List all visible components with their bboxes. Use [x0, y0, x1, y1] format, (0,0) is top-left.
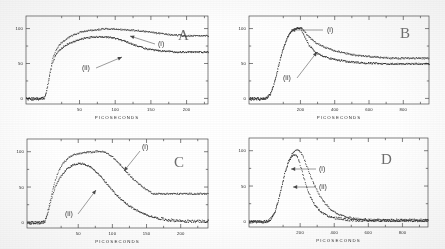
y-tick-label: 0: [21, 220, 24, 225]
x-tick-label: 150: [143, 231, 151, 236]
series-ii-points: [26, 36, 209, 101]
y-tick-label: 50: [241, 61, 247, 66]
x-axis-title: PICOSECONDS: [95, 115, 140, 120]
x-tick-label: 400: [331, 107, 339, 112]
panel-letter: D: [381, 151, 392, 167]
curve-label-i: (i): [327, 26, 333, 34]
x-axis-title: PICOSECONDS: [316, 238, 361, 243]
annotation-arrow-head: [124, 167, 128, 171]
curve-label-i: (i): [142, 143, 148, 151]
panel-letter: C: [174, 154, 184, 170]
x-tick-label: 200: [297, 107, 305, 112]
x-tick-label: 150: [147, 107, 155, 112]
x-tick-label: 50: [76, 231, 82, 236]
y-tick-label: 100: [15, 26, 23, 31]
annotation-leader-line: [96, 57, 122, 68]
y-tick-label: 0: [243, 219, 246, 224]
chart-panel-b: 200400600800050100PICOSECONDSB(i)(ii): [223, 0, 445, 124]
x-tick-label: 600: [365, 230, 373, 235]
panel-letter: B: [400, 25, 410, 41]
curve-label-ii: (ii): [65, 210, 73, 218]
chart-panel-d: 200400600800050100PICOSECONDSD(i)(ii): [223, 124, 445, 249]
series-ii-points: [27, 163, 208, 225]
x-tick-label: 800: [399, 107, 407, 112]
y-tick-label: 100: [238, 26, 246, 31]
annotation-arrow-head: [130, 35, 135, 39]
x-tick-label: 200: [183, 107, 191, 112]
x-tick-label: 100: [111, 107, 119, 112]
annotation-leader-line: [297, 52, 317, 78]
annotation-arrow-head: [92, 190, 96, 195]
annotation-arrow-head: [313, 52, 317, 56]
y-tick-label: 100: [16, 149, 24, 154]
annotation-arrow-head: [293, 185, 297, 189]
series-ii-points: [249, 154, 428, 223]
curve-label-ii: (ii): [319, 183, 327, 191]
y-tick-label: 50: [18, 61, 24, 66]
curve-label-i: (i): [158, 40, 164, 48]
x-tick-label: 200: [177, 231, 185, 236]
curve-label-ii: (ii): [283, 74, 291, 82]
y-tick-label: 0: [243, 96, 246, 101]
y-tick-label: 100: [238, 148, 246, 153]
x-axis-title: PICOSECONDS: [95, 239, 140, 244]
annotation-arrow-head: [291, 167, 295, 171]
figure-panel-grid: 50100150200050100PICOSECONDSA(i)(ii) 200…: [0, 0, 445, 249]
y-tick-label: 50: [241, 184, 247, 189]
y-tick-label: 0: [20, 96, 23, 101]
chart-panel-a: 50100150200050100PICOSECONDSA(i)(ii): [0, 0, 223, 124]
panel-letter: A: [178, 27, 189, 43]
chart-panel-c: 50100150200050100PICOSECONDSC(i)(ii): [0, 124, 223, 249]
x-tick-label: 600: [365, 107, 373, 112]
x-axis-title: PICOSECONDS: [317, 115, 362, 120]
annotation-leader-line: [78, 190, 96, 214]
x-tick-label: 50: [77, 107, 83, 112]
x-tick-label: 800: [399, 230, 407, 235]
series-i-points: [249, 149, 429, 223]
x-tick-label: 200: [296, 230, 304, 235]
x-tick-label: 400: [330, 230, 338, 235]
x-tick-label: 100: [109, 231, 117, 236]
y-tick-label: 50: [19, 185, 25, 190]
curve-label-i: (i): [319, 165, 325, 173]
plot-frame: [249, 138, 428, 227]
curve-label-ii: (ii): [82, 64, 90, 72]
plot-frame: [27, 139, 208, 228]
